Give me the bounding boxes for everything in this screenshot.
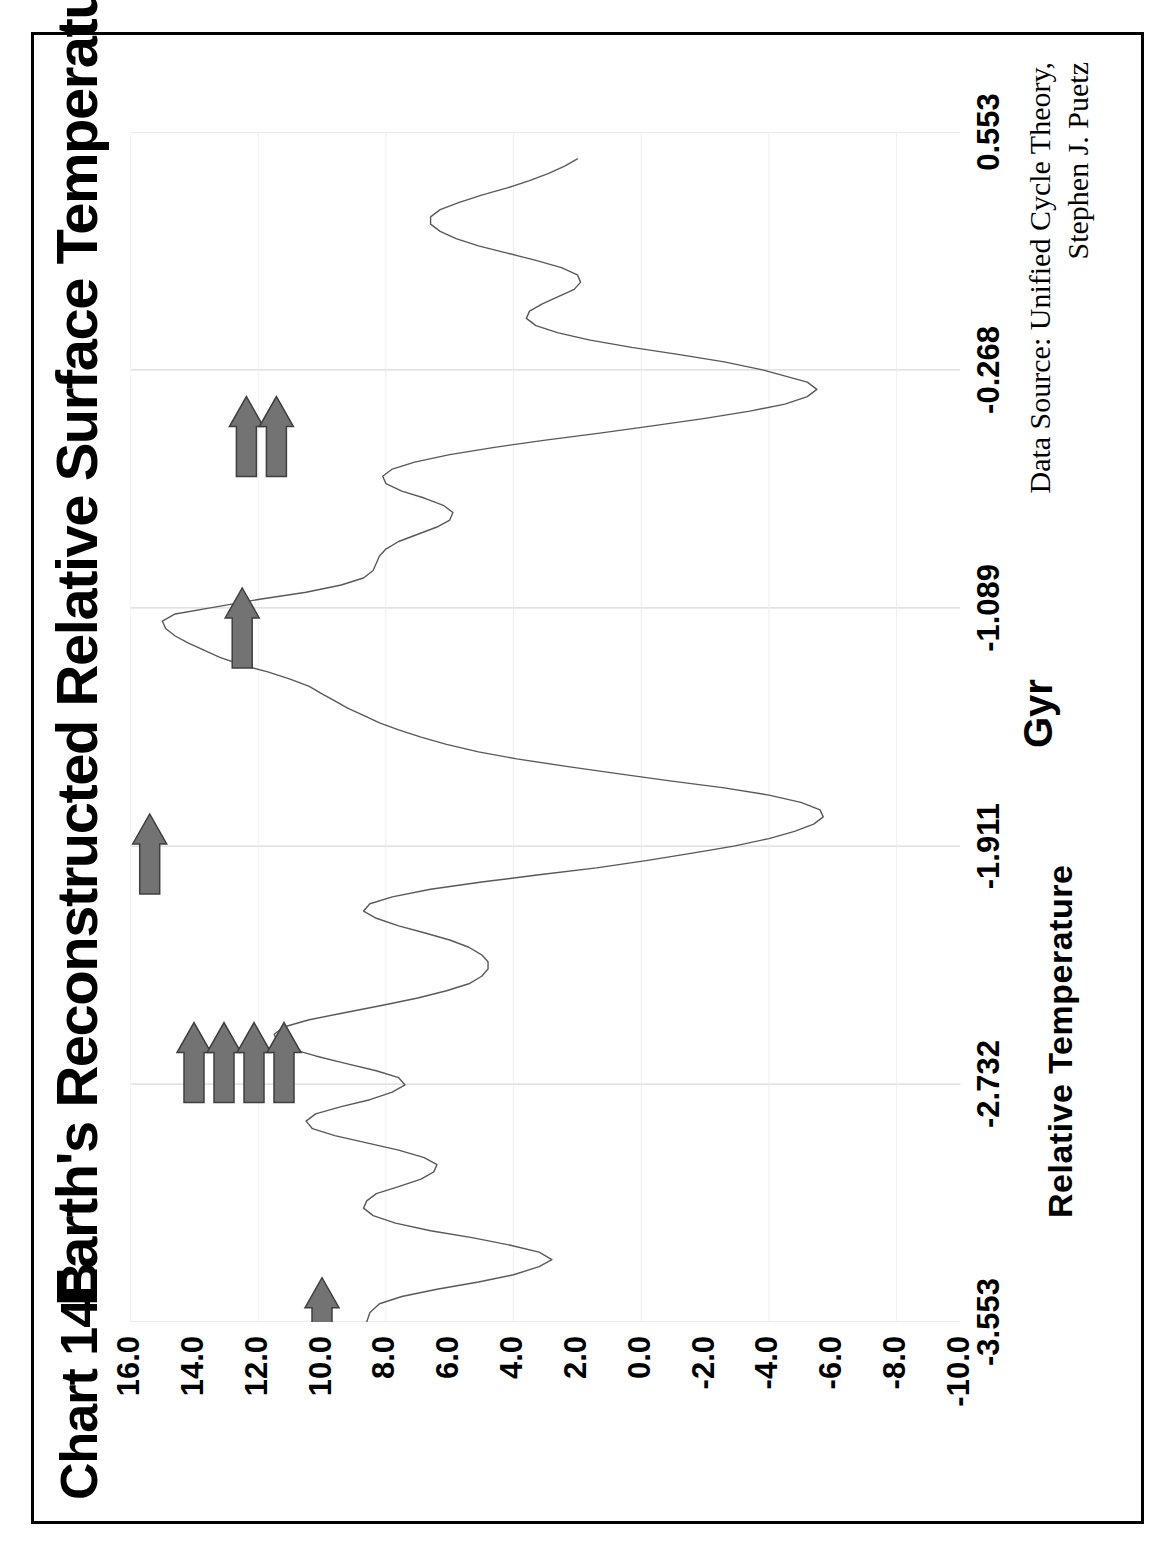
y-axis-tick--6-0: -6.0 — [812, 1336, 848, 1456]
event-arrow-group-4-1 — [177, 1023, 211, 1103]
x-axis-tick-3553: -3.553 — [970, 1278, 1006, 1366]
gridlines — [130, 132, 960, 1322]
x-axis-title: Gyr — [1015, 679, 1060, 748]
event-arrow-group-4-4 — [267, 1023, 301, 1103]
event-arrow-annotations — [132, 397, 338, 1322]
y-axis-tick-2-0: 2.0 — [557, 1336, 593, 1456]
y-axis-tick-6-0: 6.0 — [429, 1336, 465, 1456]
event-arrow-group-2-2 — [259, 397, 293, 477]
y-axis-title: Relative Temperature — [1040, 865, 1079, 1218]
event-arrow-group-4-2 — [207, 1023, 241, 1103]
y-axis-tick-0-0: 0.0 — [621, 1336, 657, 1456]
x-axis-tick-0268: -0.268 — [970, 326, 1006, 414]
data-source-line-2: Stephen J. Puetz — [1058, 62, 1096, 494]
event-arrow-1-1 — [305, 1278, 339, 1322]
data-source-note: Data Source: Unified Cycle Theory, Steph… — [1020, 62, 1095, 494]
y-axis-tick--4-0: -4.0 — [748, 1336, 784, 1456]
y-axis-tick-4-0: 4.0 — [493, 1336, 529, 1456]
y-axis-tick-12-0: 12.0 — [238, 1336, 274, 1456]
y-axis-tick-10-0: 10.0 — [302, 1336, 338, 1456]
event-arrow-group-4-3 — [237, 1023, 271, 1103]
page-canvas: Chart 14B Earth's Reconstructed Relative… — [0, 0, 1174, 1557]
event-arrow-2-1 — [132, 814, 166, 894]
y-axis-tick-14-0: 14.0 — [174, 1336, 210, 1456]
y-axis-tick-16-0: 16.0 — [110, 1336, 146, 1456]
y-axis-tick-8-0: 8.0 — [365, 1336, 401, 1456]
x-axis-tick-1911: -1.911 — [970, 803, 1006, 889]
x-axis-tick-1089: -1.089 — [970, 564, 1006, 652]
data-series-group — [162, 159, 823, 1322]
plot-area — [130, 132, 960, 1322]
x-axis-tick-0553: 0.553 — [970, 93, 1006, 171]
data-source-line-1: Data Source: Unified Cycle Theory, — [1020, 62, 1058, 494]
chart-title: Earth's Reconstructed Relative Surface T… — [42, 0, 109, 1306]
y-axis-tick--8-0: -8.0 — [876, 1336, 912, 1456]
x-axis-tick-2732: -2.732 — [970, 1040, 1006, 1128]
chart-stage: Chart 14B Earth's Reconstructed Relative… — [40, 38, 1135, 1518]
y-axis-tick--2-0: -2.0 — [685, 1336, 721, 1456]
page-border: Chart 14B Earth's Reconstructed Relative… — [31, 32, 1144, 1524]
series-relative-temperature — [162, 159, 823, 1322]
temperature-line-chart — [130, 132, 960, 1322]
